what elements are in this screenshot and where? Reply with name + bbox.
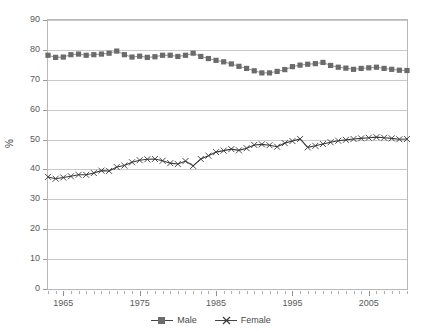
x-axis-tick: [323, 291, 324, 294]
y-axis-tick-label: 70: [14, 75, 40, 84]
series-markers-male: [45, 48, 409, 75]
x-axis-tick: [262, 291, 263, 294]
y-axis-tick-label: 0: [14, 284, 40, 293]
x-axis-tick-label: 1995: [272, 298, 312, 308]
chart-legend: Male Female: [0, 315, 422, 325]
x-axis-tick: [224, 291, 225, 294]
y-axis-tick-label: 90: [14, 15, 40, 24]
x-axis-tick: [178, 291, 179, 294]
x-axis-tick: [254, 291, 255, 294]
x-axis-tick: [124, 291, 125, 294]
y-axis-tick-label: 40: [14, 164, 40, 173]
x-axis-tick: [285, 291, 286, 294]
legend-item-female: Female: [215, 315, 271, 325]
x-axis-tick: [132, 291, 133, 294]
x-axis-tick: [369, 291, 370, 296]
x-axis-tick: [247, 291, 248, 294]
x-axis-tick: [86, 291, 87, 294]
y-axis-tick-label: 80: [14, 45, 40, 54]
series-layer: [48, 20, 407, 289]
x-axis-tick-label: 1985: [196, 298, 236, 308]
x-axis-tick: [354, 291, 355, 294]
x-axis-tick: [308, 291, 309, 294]
x-axis-tick: [361, 291, 362, 294]
x-axis-tick: [292, 291, 293, 296]
legend-marker-square-icon: [151, 316, 173, 325]
x-axis-tick: [94, 291, 95, 294]
x-axis-tick: [193, 291, 194, 294]
series-markers-female: [45, 134, 410, 182]
y-axis-tick-label: 50: [14, 135, 40, 144]
x-axis-tick: [231, 291, 232, 294]
plot-area: [47, 19, 408, 290]
x-axis-tick: [140, 291, 141, 296]
x-axis-tick: [300, 291, 301, 294]
x-axis-tick: [71, 291, 72, 294]
y-axis-tick-label: 10: [14, 254, 40, 263]
x-axis-tick-label: 1965: [43, 298, 83, 308]
x-axis-tick: [48, 291, 49, 294]
x-axis-tick: [56, 291, 57, 294]
x-axis-tick: [338, 291, 339, 294]
series-line-female: [48, 137, 407, 179]
x-axis-tick: [384, 291, 385, 294]
x-axis-tick: [270, 291, 271, 294]
x-axis-tick: [79, 291, 80, 294]
x-axis-tick: [392, 291, 393, 294]
x-axis-tick: [376, 291, 377, 294]
x-axis-tick: [346, 291, 347, 294]
x-axis-tick: [185, 291, 186, 294]
x-axis-tick-label: 1975: [120, 298, 160, 308]
x-axis-tick: [315, 291, 316, 294]
x-axis-tick: [163, 291, 164, 294]
x-axis-tick: [170, 291, 171, 294]
legend-marker-x-icon: [215, 316, 237, 325]
x-axis-tick: [109, 291, 110, 294]
x-axis-tick: [277, 291, 278, 294]
legend-label-female: Female: [241, 315, 271, 325]
x-axis-tick: [117, 291, 118, 294]
x-axis-tick: [208, 291, 209, 294]
x-axis-tick-label: 2005: [349, 298, 389, 308]
x-axis-tick: [147, 291, 148, 294]
legend-item-male: Male: [151, 315, 197, 325]
legend-label-male: Male: [177, 315, 197, 325]
x-axis-tick: [155, 291, 156, 294]
chart-container: % 0102030405060708090 196519751985199520…: [0, 0, 422, 333]
x-axis-tick: [101, 291, 102, 294]
x-axis-tick: [63, 291, 64, 296]
y-axis-tick-label: 20: [14, 224, 40, 233]
x-axis-tick: [407, 291, 408, 294]
x-axis-tick: [331, 291, 332, 294]
x-axis-tick: [399, 291, 400, 294]
y-axis-tick-label: 60: [14, 105, 40, 114]
y-axis-tick-label: 30: [14, 194, 40, 203]
x-axis-tick: [239, 291, 240, 294]
x-axis-tick: [216, 291, 217, 296]
x-axis-tick: [201, 291, 202, 294]
